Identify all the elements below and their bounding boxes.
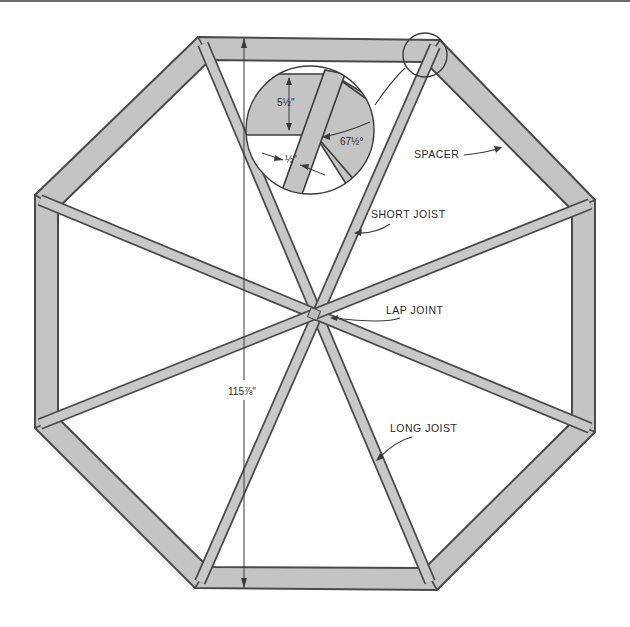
overall-span-dimension: 115⅞" [228,386,256,397]
long-joist-label: LONG JOIST [390,422,458,434]
spacer-label: SPACER [414,148,459,160]
lap-joint-label: LAP JOINT [386,304,443,316]
detail-board-width-dimension: 5½" [277,97,295,108]
detail-leader-line [375,68,405,105]
detail-angle-dimension: 67½° [340,136,363,147]
spacer-leader [464,148,500,155]
detail-joist-gap-dimension: ½" [285,154,297,165]
short-joist-label: SHORT JOIST [371,208,446,220]
octagon-frame-diagram: 115⅞" 5½" 67½° ½" SP [0,0,630,627]
